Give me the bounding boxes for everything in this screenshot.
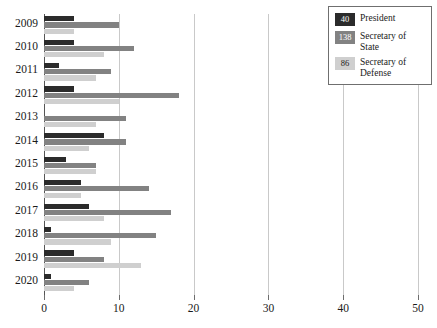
- x-tick-label-40: 40: [337, 303, 349, 315]
- legend-item-state[interactable]: 138Secretary of State: [335, 31, 426, 52]
- bar-state-2010: [44, 46, 134, 51]
- bar-state-2014: [44, 139, 126, 144]
- bar-defense-2018: [44, 239, 111, 244]
- year-label-2017: 2017: [15, 205, 38, 217]
- chart-legend: 40President138Secretary of State86Secret…: [328, 6, 432, 85]
- year-row: 2014: [44, 131, 418, 154]
- bar-defense-2016: [44, 193, 81, 198]
- x-tick-20: [194, 295, 195, 300]
- bar-state-2019: [44, 257, 104, 262]
- bar-state-2016: [44, 186, 149, 191]
- year-row: 2018: [44, 225, 418, 248]
- bar-president-2012: [44, 86, 74, 91]
- bar-president-2020: [44, 274, 51, 279]
- legend-label-president: President: [360, 13, 395, 24]
- year-label-2010: 2010: [15, 41, 38, 53]
- year-row: 2016: [44, 178, 418, 201]
- bar-defense-2012: [44, 99, 119, 104]
- year-label-2013: 2013: [15, 111, 38, 123]
- x-tick-10: [119, 295, 120, 300]
- year-row: 2020: [44, 272, 418, 295]
- x-tick-label-20: 20: [188, 303, 200, 315]
- year-label-2020: 2020: [15, 275, 38, 287]
- bar-defense-2014: [44, 146, 89, 151]
- bar-state-2017: [44, 210, 171, 215]
- year-label-2011: 2011: [15, 64, 38, 76]
- legend-swatch-president: 40: [335, 13, 355, 26]
- bar-president-2017: [44, 204, 89, 209]
- year-label-2015: 2015: [15, 158, 38, 170]
- legend-item-defense[interactable]: 86Secretary of Defense: [335, 57, 426, 78]
- bar-state-2015: [44, 163, 96, 168]
- bar-defense-2020: [44, 286, 74, 291]
- legend-swatch-state: 138: [335, 31, 355, 44]
- bar-defense-2015: [44, 169, 96, 174]
- legend-label-defense: Secretary of Defense: [360, 57, 426, 78]
- bar-defense-2009: [44, 29, 74, 34]
- x-tick-label-10: 10: [113, 303, 125, 315]
- bar-state-2011: [44, 69, 111, 74]
- year-row: 2019: [44, 248, 418, 271]
- bar-defense-2010: [44, 52, 104, 57]
- bar-president-2015: [44, 157, 66, 162]
- legend-label-state: Secretary of State: [360, 31, 426, 52]
- bar-state-2020: [44, 280, 89, 285]
- year-label-2018: 2018: [15, 228, 38, 240]
- horizontal-bar-chart: 2009201020112012201320142015201620172018…: [0, 0, 437, 328]
- x-tick-0: [44, 295, 45, 300]
- year-label-2016: 2016: [15, 181, 38, 193]
- x-tick-label-0: 0: [41, 303, 47, 315]
- bar-president-2011: [44, 63, 59, 68]
- bar-defense-2019: [44, 263, 141, 268]
- year-label-2014: 2014: [15, 135, 38, 147]
- x-tick-30: [268, 295, 269, 300]
- bar-president-2016: [44, 180, 81, 185]
- bar-president-2009: [44, 16, 74, 21]
- legend-item-president[interactable]: 40President: [335, 13, 426, 26]
- x-tick-50: [418, 295, 419, 300]
- bar-defense-2013: [44, 122, 96, 127]
- year-label-2009: 2009: [15, 18, 38, 30]
- bar-president-2010: [44, 40, 74, 45]
- legend-swatch-defense: 86: [335, 57, 355, 70]
- bar-president-2014: [44, 133, 104, 138]
- year-row: 2015: [44, 155, 418, 178]
- bar-defense-2011: [44, 75, 96, 80]
- bar-president-2019: [44, 250, 74, 255]
- bar-defense-2017: [44, 216, 104, 221]
- year-row: 2017: [44, 201, 418, 224]
- year-row: 2012: [44, 84, 418, 107]
- x-tick-40: [343, 295, 344, 300]
- year-label-2019: 2019: [15, 252, 38, 264]
- x-tick-label-50: 50: [412, 303, 424, 315]
- bar-state-2013: [44, 116, 126, 121]
- bar-state-2009: [44, 22, 119, 27]
- bar-president-2018: [44, 227, 51, 232]
- bar-state-2018: [44, 233, 156, 238]
- x-axis: 01020304050: [44, 295, 418, 323]
- year-row: 2013: [44, 108, 418, 131]
- x-tick-label-30: 30: [263, 303, 275, 315]
- year-label-2012: 2012: [15, 88, 38, 100]
- bar-state-2012: [44, 93, 179, 98]
